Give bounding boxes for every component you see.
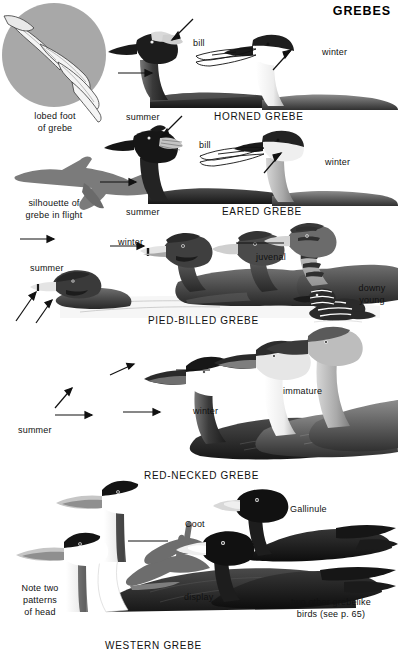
rednecked-summer-label: summer	[18, 425, 52, 436]
horned-summer-label: summer	[126, 112, 160, 123]
gallinule-label: Gallinule	[290, 504, 327, 515]
horned-bill-label: bill	[193, 38, 205, 49]
pied-winter-label: winter	[118, 237, 143, 248]
lobed-foot-figure	[2, 3, 106, 122]
lobed-foot-caption: lobed footof grebe	[4, 110, 106, 134]
grebes-plate: GREBES lobed footof grebe silhouette ofg…	[0, 0, 399, 658]
rednecked-winter-label: winter	[193, 406, 218, 417]
western-display-label: display	[184, 592, 213, 603]
silhouette-caption: silhouette ofgrebe in flight	[0, 197, 108, 221]
other-birds-caption: two other grebelikebirds (see p. 65)	[266, 596, 396, 620]
horned-grebe-name: HORNED GREBE	[214, 111, 304, 122]
pied-juvenal-label: juvenal	[256, 252, 286, 263]
plate-illustrations	[0, 0, 399, 658]
pied-downy-young-label: downyyoung	[348, 282, 396, 306]
pied-billed-grebe-name: PIED-BILLED GREBE	[148, 315, 259, 326]
eared-winter-label: winter	[325, 157, 350, 168]
eared-bill-label: bill	[199, 140, 211, 151]
western-note-label: Note twopatternsof head	[2, 582, 78, 618]
coot-label: Coot	[185, 519, 205, 530]
rednecked-immature-label: immature	[283, 386, 322, 397]
red-necked-grebe-name: RED-NECKED GREBE	[144, 470, 259, 481]
eared-summer-label: summer	[126, 207, 160, 218]
eared-grebe-name: EARED GREBE	[222, 206, 302, 217]
western-grebe-name: WESTERN GREBE	[105, 640, 202, 651]
page-title: GREBES	[333, 4, 391, 18]
pied-summer-label: summer	[30, 263, 64, 274]
horned-winter-label: winter	[322, 47, 347, 58]
